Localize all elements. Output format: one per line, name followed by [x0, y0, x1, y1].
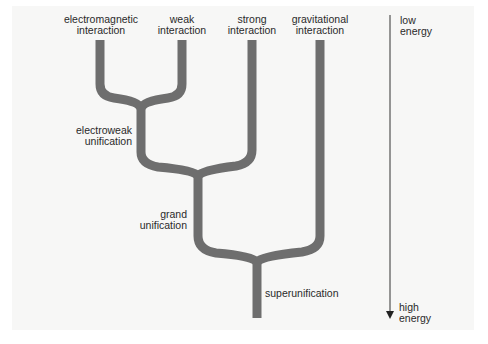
unification-tree — [0, 0, 488, 344]
electroweak-stem — [141, 104, 198, 176]
weak-branch — [141, 40, 182, 108]
label-line: unification — [60, 136, 132, 147]
label-superunification: superunification — [265, 288, 375, 299]
electromagnetic-branch — [100, 40, 141, 108]
label-gravitational: gravitational interaction — [282, 14, 358, 36]
label-line: energy — [399, 313, 459, 324]
label-low-energy: low energy — [400, 15, 460, 37]
label-line: superunification — [265, 288, 375, 299]
label-electroweak-unification: electroweak unification — [60, 125, 132, 147]
label-line: interaction — [282, 25, 358, 36]
energy-axis-arrowhead — [386, 311, 394, 319]
label-line: interaction — [150, 25, 214, 36]
label-grand-unification: grand unification — [110, 209, 187, 231]
label-high-energy: high energy — [399, 302, 459, 324]
strong-branch — [198, 40, 252, 176]
label-line: unification — [110, 220, 187, 231]
label-weak: weak interaction — [150, 14, 214, 36]
gravitational-branch — [257, 40, 320, 262]
label-line: energy — [400, 26, 460, 37]
label-strong: strong interaction — [220, 14, 284, 36]
label-line: interaction — [58, 25, 144, 36]
label-electromagnetic: electromagnetic interaction — [58, 14, 144, 36]
grand-stem — [198, 172, 257, 262]
label-line: interaction — [220, 25, 284, 36]
